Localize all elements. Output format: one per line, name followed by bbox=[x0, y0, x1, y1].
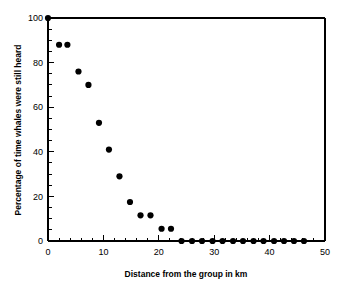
data-point bbox=[240, 238, 246, 244]
data-point bbox=[158, 226, 164, 232]
data-point bbox=[96, 120, 102, 126]
x-tick-label: 0 bbox=[45, 247, 50, 257]
data-point bbox=[106, 146, 112, 152]
y-tick-label: 40 bbox=[33, 147, 43, 157]
x-tick-label: 10 bbox=[98, 247, 108, 257]
data-point bbox=[168, 226, 174, 232]
x-axis-title: Distance from the group in km bbox=[125, 269, 248, 279]
data-point bbox=[230, 238, 236, 244]
axis-ticks bbox=[48, 18, 325, 241]
data-point bbox=[137, 212, 143, 218]
data-point bbox=[116, 173, 122, 179]
data-point bbox=[75, 68, 81, 74]
chart-figure: 01020304050020406080100 Distance from th… bbox=[0, 0, 345, 291]
y-axis-title: Percentage of time whales were still hea… bbox=[13, 44, 23, 215]
data-point bbox=[260, 238, 266, 244]
data-point bbox=[56, 42, 62, 48]
data-points bbox=[45, 15, 307, 244]
data-point bbox=[209, 238, 215, 244]
data-point bbox=[64, 42, 70, 48]
x-tick-label: 20 bbox=[154, 247, 164, 257]
data-point bbox=[301, 238, 307, 244]
data-point bbox=[85, 82, 91, 88]
y-tick-label: 60 bbox=[33, 102, 43, 112]
data-point bbox=[199, 238, 205, 244]
data-point bbox=[45, 15, 51, 21]
data-point bbox=[250, 238, 256, 244]
data-point bbox=[281, 238, 287, 244]
axes-layer bbox=[48, 18, 325, 241]
axis-tick-labels: 01020304050020406080100 bbox=[28, 13, 330, 257]
y-tick-label: 100 bbox=[28, 13, 43, 23]
data-point bbox=[189, 238, 195, 244]
data-point bbox=[291, 238, 297, 244]
x-tick-label: 50 bbox=[320, 247, 330, 257]
x-tick-label: 30 bbox=[209, 247, 219, 257]
data-point bbox=[147, 212, 153, 218]
data-point bbox=[219, 238, 225, 244]
data-point bbox=[271, 238, 277, 244]
y-tick-label: 20 bbox=[33, 192, 43, 202]
data-point bbox=[127, 199, 133, 205]
y-tick-label: 80 bbox=[33, 58, 43, 68]
scatter-plot: 01020304050020406080100 Distance from th… bbox=[0, 0, 345, 291]
y-tick-label: 0 bbox=[38, 236, 43, 246]
data-point bbox=[178, 238, 184, 244]
x-tick-label: 40 bbox=[265, 247, 275, 257]
